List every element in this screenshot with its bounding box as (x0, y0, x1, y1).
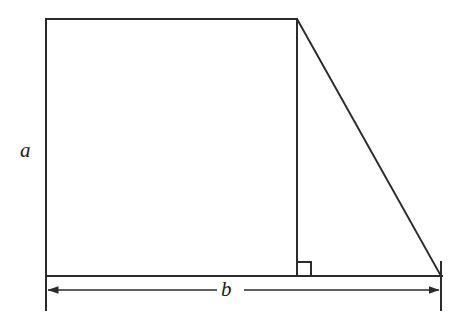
rectangle-outline (46, 19, 297, 276)
geometry-diagram (0, 0, 466, 317)
width-dimension-label: b (221, 279, 232, 300)
triangle-hypotenuse (297, 19, 441, 276)
figure-container: a b (0, 0, 466, 317)
right-angle-marker-icon (298, 262, 311, 276)
height-dimension-label: a (20, 140, 31, 161)
